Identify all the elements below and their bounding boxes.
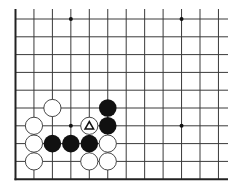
white-stone-body — [44, 99, 61, 116]
black-stone-body — [81, 135, 99, 153]
hoshi-point — [180, 124, 184, 128]
black-stone — [99, 99, 117, 117]
white-stone-body — [81, 117, 98, 134]
board-edges — [15, 9, 229, 180]
board-grid — [16, 9, 229, 179]
white-stone — [99, 153, 116, 170]
white-stone — [81, 153, 98, 170]
white-stone — [25, 153, 42, 170]
white-stone — [81, 117, 98, 134]
white-stone — [44, 99, 61, 116]
hoshi-point — [69, 124, 73, 128]
white-stone-body — [25, 135, 42, 152]
black-stone-body — [99, 117, 117, 135]
black-stone — [62, 135, 80, 153]
black-stone — [99, 117, 117, 135]
black-stone — [81, 135, 99, 153]
black-stone-body — [99, 99, 117, 117]
white-stone-body — [99, 135, 116, 152]
black-stone-body — [44, 135, 62, 153]
white-stone-body — [99, 153, 116, 170]
hoshi-point — [180, 17, 184, 21]
white-stone — [25, 117, 42, 134]
black-stone — [44, 135, 62, 153]
black-stone-body — [62, 135, 80, 153]
white-stone-body — [25, 117, 42, 134]
go-board — [0, 0, 239, 194]
white-stone-body — [25, 153, 42, 170]
white-stone — [25, 135, 42, 152]
hoshi-point — [69, 17, 73, 21]
white-stone — [99, 135, 116, 152]
white-stone-body — [81, 153, 98, 170]
